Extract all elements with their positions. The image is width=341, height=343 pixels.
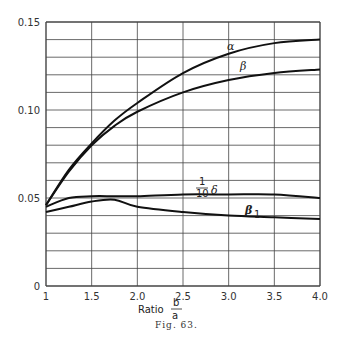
x-axis-ticks: 11.52.02.53.03.54.0 [43, 291, 328, 302]
x-axis-title-text: Ratio [138, 304, 164, 315]
delta-fraction-den: 10 [196, 188, 209, 199]
y-tick-label: 0.15 [18, 17, 40, 28]
y-tick-label: 0.10 [18, 105, 40, 116]
beta1-symbol: β [244, 204, 253, 217]
x-tick-label: 3.5 [266, 291, 282, 302]
y-tick-label: 0.05 [18, 193, 40, 204]
grid [46, 22, 320, 286]
x-tick-label: 2.0 [129, 291, 145, 302]
y-axis-ticks: 00.050.100.15 [18, 17, 40, 292]
series-label-alpha: α [227, 40, 235, 53]
delta-symbol: δ [211, 184, 218, 197]
delta-fraction-num: 1 [199, 176, 205, 187]
x-axis-title-num: b [173, 297, 179, 308]
x-tick-label: 1.5 [84, 291, 100, 302]
y-tick-label: 0 [34, 281, 40, 292]
x-tick-label: 4.0 [312, 291, 328, 302]
figure-caption: Fig. 63. [155, 320, 198, 330]
x-tick-label: 1 [43, 291, 49, 302]
beta1-subscript: 1 [254, 209, 260, 220]
series-label-beta: β [239, 60, 246, 73]
series-label-delta: 1 10 δ [196, 176, 218, 199]
x-tick-label: 3.0 [221, 291, 237, 302]
chart: 00.050.100.15 11.52.02.53.03.54.0 α β 1 … [0, 0, 341, 343]
